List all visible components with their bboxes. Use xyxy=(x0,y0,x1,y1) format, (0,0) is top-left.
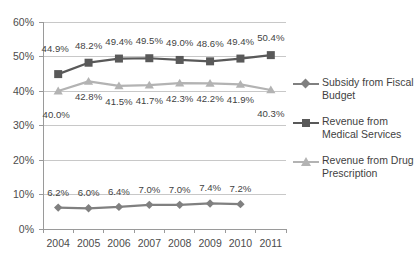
y-axis-label: 10% xyxy=(13,188,34,200)
square-marker-icon xyxy=(54,70,62,78)
data-label: 49.5% xyxy=(136,35,164,46)
diamond-marker-icon xyxy=(236,200,244,208)
legend-triangle-icon xyxy=(293,155,319,169)
legend-item-subsidy[interactable]: Subsidy from Fiscal Budget xyxy=(293,76,419,102)
data-label: 42.2% xyxy=(196,93,224,104)
legend-square-icon xyxy=(293,116,319,130)
x-axis-label: 2006 xyxy=(107,237,131,249)
x-axis-label: 2005 xyxy=(77,237,101,249)
diamond-marker-icon xyxy=(301,79,311,89)
data-label: 50.4% xyxy=(257,32,285,43)
data-label: 48.2% xyxy=(75,40,103,51)
y-axis-label: 60% xyxy=(13,16,34,28)
x-axis-label: 2009 xyxy=(198,237,222,249)
data-label: 6.4% xyxy=(108,186,130,197)
x-axis-label: 2010 xyxy=(229,237,253,249)
gridlines xyxy=(39,22,286,229)
data-label: 40.0% xyxy=(43,109,71,120)
data-label: 41.5% xyxy=(105,96,133,107)
y-axis-label: 50% xyxy=(13,50,34,62)
x-axis-label: 2004 xyxy=(47,237,71,249)
triangle-marker-icon xyxy=(301,157,311,166)
diamond-marker-icon xyxy=(84,204,92,212)
y-axis-label: 30% xyxy=(13,119,34,131)
legend-label-subsidy: Subsidy from Fiscal Budget xyxy=(322,76,419,102)
square-marker-icon xyxy=(145,54,153,62)
legend-item-drug[interactable]: Revenue from Drug Prescription xyxy=(293,154,419,180)
square-marker-icon xyxy=(267,51,275,59)
diamond-marker-icon xyxy=(54,203,62,211)
legend-label-medical: Revenue from Medical Services xyxy=(322,115,419,141)
data-label: 6.2% xyxy=(47,187,69,198)
data-label: 40.3% xyxy=(257,108,285,119)
x-axis-label: 2011 xyxy=(260,237,283,249)
data-label: 42.8% xyxy=(75,91,103,102)
x-axis-tick-labels: 20042005200620072008200920102011 xyxy=(47,237,283,249)
data-label: 6.0% xyxy=(78,187,100,198)
x-axis-label: 2007 xyxy=(138,237,162,249)
x-axis-label: 2008 xyxy=(168,237,192,249)
y-axis-label: 40% xyxy=(13,85,34,97)
diamond-marker-icon xyxy=(206,199,214,207)
square-marker-icon xyxy=(302,119,310,127)
data-label: 7.2% xyxy=(230,183,252,194)
legend-item-medical[interactable]: Revenue from Medical Services xyxy=(293,115,419,141)
diamond-marker-icon xyxy=(175,201,183,209)
square-marker-icon xyxy=(85,59,93,67)
square-marker-icon xyxy=(115,55,123,63)
data-label: 49.0% xyxy=(166,37,194,48)
legend-diamond-icon xyxy=(293,77,319,91)
y-axis-label: 0% xyxy=(19,223,34,235)
data-label: 41.9% xyxy=(227,94,255,105)
data-label: 7.0% xyxy=(138,184,160,195)
data-label: 49.4% xyxy=(227,36,255,47)
y-axis-label: 20% xyxy=(13,154,34,166)
data-label: 48.6% xyxy=(196,38,224,49)
square-marker-icon xyxy=(176,56,184,64)
diamond-marker-icon xyxy=(115,203,123,211)
y-axis-tick-labels: 0%10%20%30%40%50%60% xyxy=(13,16,34,235)
data-label: 41.7% xyxy=(136,95,164,106)
data-label: 42.3% xyxy=(166,93,194,104)
square-marker-icon xyxy=(236,55,244,63)
square-marker-icon xyxy=(206,57,214,65)
data-label: 7.0% xyxy=(169,184,191,195)
chart-legend: Subsidy from Fiscal Budget Revenue from … xyxy=(293,76,419,193)
data-label: 7.4% xyxy=(199,182,221,193)
data-label: 49.4% xyxy=(105,36,133,47)
data-label: 44.9% xyxy=(42,43,70,54)
diamond-marker-icon xyxy=(145,201,153,209)
x-axis-tickmarks xyxy=(43,229,286,233)
legend-label-drug: Revenue from Drug Prescription xyxy=(322,154,419,180)
chart-container: 0%10%20%30%40%50%60% 2004200520062007200… xyxy=(0,0,419,265)
